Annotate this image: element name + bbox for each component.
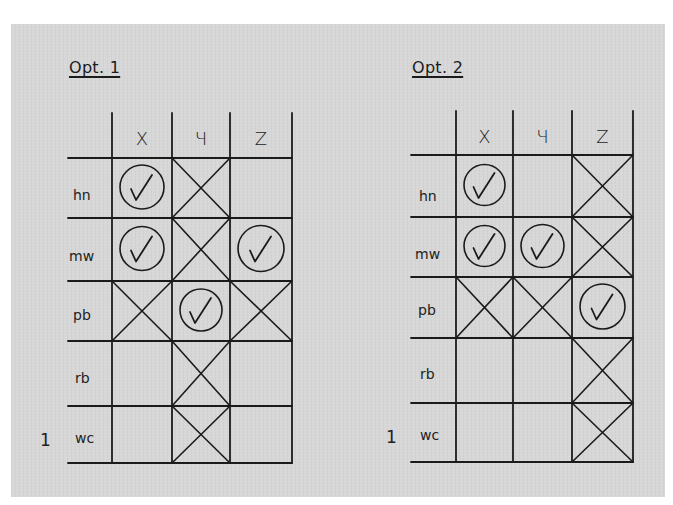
option-2-col-z: Z [572, 126, 633, 147]
option-1-row-wc: wc [75, 430, 94, 446]
option-1-row-hn: hn [73, 187, 91, 203]
option-1-row-rb: rb [75, 370, 90, 386]
check-circle-icon [120, 227, 164, 271]
option-1-title: Opt. 1 [69, 58, 120, 77]
option-2-col-x: X [456, 126, 513, 147]
check-circle-icon [238, 226, 284, 272]
option-2-row-wc: wc [420, 427, 439, 443]
option-1-row-mw: mw [69, 248, 94, 264]
check-circle-icon [464, 226, 505, 267]
option-1-side-marker: 1 [40, 430, 51, 450]
check-circle-icon [464, 165, 505, 206]
option-1-col-y: Ч [172, 128, 230, 149]
option-2-col-y: Ч [513, 126, 572, 147]
check-circle-icon [521, 225, 564, 268]
option-1-row-pb: pb [73, 307, 91, 323]
option-2-row-pb: pb [418, 302, 436, 318]
option-2-title: Opt. 2 [412, 58, 463, 77]
check-circle-icon [580, 284, 625, 329]
option-2-row-rb: rb [420, 366, 435, 382]
check-circle-icon [180, 289, 222, 331]
option-1-col-z: Z [230, 128, 292, 149]
check-circle-icon [120, 165, 164, 209]
option-2-row-mw: mw [415, 246, 440, 262]
option-2-side-marker: 1 [386, 427, 397, 447]
option-1-col-x: X [112, 128, 172, 149]
option-2-row-hn: hn [419, 188, 437, 204]
